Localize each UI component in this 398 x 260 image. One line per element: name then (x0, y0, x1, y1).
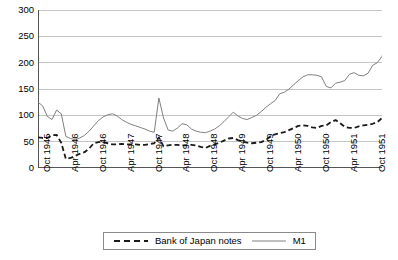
x-tick-label: Oct 1945 (42, 133, 52, 172)
y-axis: 050100150200250300 (0, 10, 34, 168)
x-tick-label: Oct 1947 (154, 133, 164, 172)
x-tick-label: Apr 1946 (70, 133, 80, 172)
x-tick-label: Oct 1949 (265, 133, 275, 172)
y-tick-label: 150 (0, 84, 34, 94)
x-tick-label: Oct 1951 (377, 133, 387, 172)
x-tick-label: Apr 1948 (181, 133, 191, 172)
series-line-m1 (38, 42, 382, 140)
x-tick-label: Apr 1947 (126, 133, 136, 172)
y-tick-label: 200 (0, 58, 34, 68)
x-tick-label: Oct 1950 (321, 133, 331, 172)
x-axis: Oct 1945Apr 1946Oct 1946Apr 1947Oct 1947… (38, 170, 382, 220)
y-tick-label: 0 (0, 163, 34, 173)
y-tick-label: 50 (0, 137, 34, 147)
chart-legend: Bank of Japan notesM1 (103, 232, 316, 250)
y-tick-label: 250 (0, 31, 34, 41)
legend-entry: Bank of Japan notes (113, 236, 242, 246)
legend-swatch-solid (251, 237, 287, 245)
legend-entry: M1 (251, 236, 306, 246)
x-tick-label: Oct 1946 (98, 133, 108, 172)
x-tick-label: Oct 1948 (209, 133, 219, 172)
x-tick-label: Apr 1950 (293, 133, 303, 172)
line-chart: 050100150200250300 Oct 1945Apr 1946Oct 1… (0, 0, 398, 260)
legend-label: M1 (293, 236, 306, 246)
legend-swatch-dashed (113, 237, 149, 245)
legend-label: Bank of Japan notes (155, 236, 242, 246)
y-tick-label: 100 (0, 110, 34, 120)
x-tick-label: Apr 1949 (237, 133, 247, 172)
y-tick-label: 300 (0, 5, 34, 15)
x-tick-label: Apr 1951 (349, 133, 359, 172)
